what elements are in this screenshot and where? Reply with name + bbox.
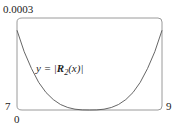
y-min-label: 0 [14, 114, 20, 125]
y-max-label: 0.0003 [3, 4, 33, 15]
plot-area [0, 0, 179, 129]
x-max-label: 9 [166, 101, 172, 112]
x-min-label: 7 [5, 101, 11, 112]
eq-suffix: (x)| [68, 62, 83, 74]
eq-prefix: y = | [36, 62, 57, 74]
curve-equation-label: y = |R2(x)| [36, 62, 83, 77]
